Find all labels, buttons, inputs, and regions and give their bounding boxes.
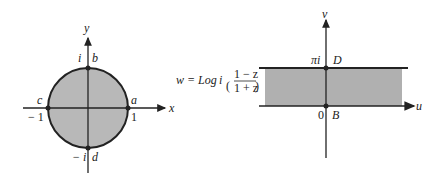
point-a-label: a	[131, 93, 137, 107]
x-axis-label: x	[168, 101, 175, 115]
paren-right: )	[255, 79, 259, 93]
point-c-dot	[46, 106, 51, 111]
point-D-label: D	[332, 53, 342, 67]
point-a-dot	[126, 106, 131, 111]
tick-i: i	[78, 51, 81, 65]
tick-1: 1	[131, 110, 137, 124]
tick-pi-i: πi	[311, 53, 320, 67]
point-D-dot	[324, 66, 329, 71]
v-axis-label: v	[322, 7, 328, 21]
svg-text:w = Log: w = Log	[176, 73, 217, 87]
z-plane: y x i b c − 1 a 1 − i d	[23, 21, 175, 173]
conformal-map-diagram: y x i b c − 1 a 1 − i d w = Log i ( 1 − …	[0, 0, 443, 180]
tick-neg-i: − i	[72, 150, 86, 164]
point-b-label: b	[92, 51, 98, 65]
point-B-label: B	[332, 108, 340, 122]
point-b-dot	[86, 66, 91, 71]
u-axis-label: u	[416, 99, 422, 113]
point-d-label: d	[92, 150, 99, 164]
point-c-label: c	[37, 93, 43, 107]
paren-left: (	[226, 79, 230, 93]
formula-lhs: w = Log	[176, 73, 217, 87]
tick-0: 0	[318, 108, 324, 122]
w-plane: v u πi D 0 B	[259, 7, 422, 158]
point-B-dot	[324, 104, 329, 109]
y-axis-label: y	[83, 21, 90, 35]
tick-neg-1: − 1	[28, 110, 44, 124]
formula-i: i	[219, 73, 222, 87]
strip-region	[265, 68, 402, 106]
mapping-formula: w = Log i ( 1 − z 1 + z )	[176, 67, 259, 95]
